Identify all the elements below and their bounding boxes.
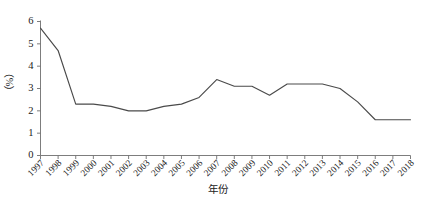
x-axis-title: 年份 xyxy=(208,183,229,195)
x-tick-label: 2018 xyxy=(396,158,416,178)
x-tick-label: 2002 xyxy=(114,158,134,178)
x-tick-label: 2012 xyxy=(290,158,310,178)
y-tick-label: 6 xyxy=(28,15,33,26)
x-tick-label: 2017 xyxy=(378,158,398,178)
x-tick-label: 2004 xyxy=(149,158,169,178)
x-tick-label: 2015 xyxy=(343,158,363,178)
y-tick-label: 1 xyxy=(28,127,33,138)
x-tick-label: 2006 xyxy=(184,158,204,178)
x-tick-label: 2003 xyxy=(131,158,151,178)
x-tick-label: 2000 xyxy=(79,158,99,178)
line-chart: 0123456 19971998199920002001200220032004… xyxy=(0,0,428,204)
x-tick-label: 2008 xyxy=(220,158,240,178)
chart-canvas: 0123456 19971998199920002001200220032004… xyxy=(0,0,428,204)
x-tick-label: 2001 xyxy=(96,158,116,178)
x-tick-label: 1998 xyxy=(43,158,63,178)
y-tick-label: 0 xyxy=(28,149,33,160)
x-tick-label: 2010 xyxy=(255,158,275,178)
x-tick-label: 1999 xyxy=(61,158,81,178)
y-tick-label: 2 xyxy=(28,105,33,116)
data-series-line xyxy=(41,28,411,120)
x-tick-label: 2009 xyxy=(237,158,257,178)
x-tick-label: 2013 xyxy=(308,158,328,178)
x-tick-label: 2007 xyxy=(202,158,222,178)
x-tick-label: 2016 xyxy=(360,158,380,178)
x-axis-ticks: 1997199819992000200120022003200420052006… xyxy=(26,156,416,179)
y-axis-ticks: 0123456 xyxy=(28,15,40,160)
y-tick-label: 4 xyxy=(28,60,34,71)
x-tick-label: 1997 xyxy=(26,158,46,178)
y-tick-label: 5 xyxy=(28,38,33,49)
y-axis-title: （%） xyxy=(4,68,15,97)
x-tick-label: 2005 xyxy=(167,158,187,178)
x-tick-label: 2011 xyxy=(273,158,293,178)
x-tick-label: 2014 xyxy=(325,158,345,178)
y-tick-label: 3 xyxy=(28,82,33,93)
